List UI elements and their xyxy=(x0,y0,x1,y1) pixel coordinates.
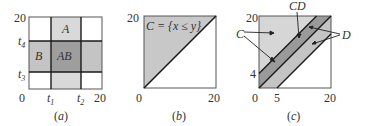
panel-b: C = {x ≤ y} 20 0 20 (b) xyxy=(127,11,220,123)
set-label-c: C = {x ≤ y} xyxy=(146,19,201,33)
figure: A B AB 20 t4 t3 0 t1 t2 20 (a) C = {x ≤ … xyxy=(0,0,369,126)
label-cd: CD xyxy=(289,0,306,13)
x-max-label: 20 xyxy=(94,91,106,105)
region-label-ab: AB xyxy=(56,49,72,63)
region-label-a: A xyxy=(61,22,70,36)
panel-c: C CD D 20 4 0 5 20 (c) xyxy=(236,0,351,123)
origin-label: 0 xyxy=(19,91,25,105)
caption-b: (b) xyxy=(172,109,186,123)
y-max-label: 20 xyxy=(127,11,139,25)
y-max-label: 20 xyxy=(14,11,26,25)
label-c: C xyxy=(236,27,245,41)
x-max-label: 20 xyxy=(324,91,336,105)
tick-label-t1: t1 xyxy=(47,91,54,107)
x-tick-5: 5 xyxy=(274,91,280,105)
tick-label-t2: t2 xyxy=(77,91,84,107)
tick-label-t4: t4 xyxy=(18,34,25,50)
y-max-label: 20 xyxy=(246,11,258,25)
x-max-label: 20 xyxy=(208,91,220,105)
origin-label: 0 xyxy=(136,91,142,105)
origin-label: 0 xyxy=(252,91,258,105)
region-label-b: B xyxy=(35,49,43,63)
tick-label-t3: t3 xyxy=(18,67,25,83)
caption-a: (a) xyxy=(54,109,68,123)
label-d: D xyxy=(341,28,351,42)
panel-a: A B AB 20 t4 t3 0 t1 t2 20 (a) xyxy=(14,11,106,123)
caption-c: (c) xyxy=(287,109,300,123)
y-tick-4: 4 xyxy=(250,67,256,81)
